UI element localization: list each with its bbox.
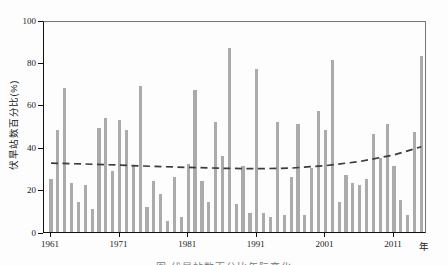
plot-area bbox=[43, 21, 426, 233]
y-tick-label-80: 80 bbox=[6, 59, 36, 68]
y-tick-80 bbox=[38, 63, 43, 64]
y-tick-60 bbox=[38, 105, 43, 106]
trend-line bbox=[44, 22, 427, 234]
y-tick-100 bbox=[38, 21, 43, 22]
chart-figure: 伏旱站数百分比(%) 020406080100 1961197119811991… bbox=[0, 0, 448, 265]
x-tick-label-1961: 1961 bbox=[33, 239, 67, 249]
y-tick-label-100: 100 bbox=[6, 17, 36, 26]
x-tick-1991 bbox=[256, 233, 257, 237]
y-tick-0 bbox=[38, 233, 43, 234]
x-tick-label-1981: 1981 bbox=[170, 239, 204, 249]
y-tick-label-20: 20 bbox=[6, 186, 36, 195]
y-tick-label-40: 40 bbox=[6, 144, 36, 153]
x-tick-1981 bbox=[187, 233, 188, 237]
x-tick-1971 bbox=[119, 233, 120, 237]
x-tick-label-1971: 1971 bbox=[102, 239, 136, 249]
y-axis-title: 伏旱站数百分比(%) bbox=[6, 70, 20, 180]
x-tick-2011 bbox=[393, 233, 394, 237]
y-tick-label-60: 60 bbox=[6, 101, 36, 110]
y-tick-20 bbox=[38, 190, 43, 191]
x-tick-label-1991: 1991 bbox=[239, 239, 273, 249]
y-tick-label-0: 0 bbox=[6, 229, 36, 238]
x-tick-2001 bbox=[324, 233, 325, 237]
x-tick-label-2001: 2001 bbox=[307, 239, 341, 249]
y-tick-40 bbox=[38, 148, 43, 149]
x-tick-1961 bbox=[50, 233, 51, 237]
x-tick-label-2011: 2011 bbox=[376, 239, 410, 249]
x-axis-unit-label: 年 bbox=[419, 239, 429, 253]
figure-caption: 图 伏旱站数百分比年际变化 bbox=[0, 259, 448, 265]
